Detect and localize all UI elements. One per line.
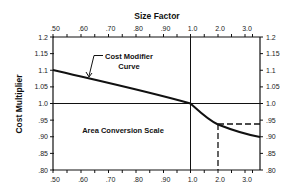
bottom-x-tick-label: .60 — [78, 176, 88, 183]
cost-multiplier-chart: .50.50.60.60.70.70.80.80.90.901.01.02.02… — [0, 0, 292, 194]
top-x-tick-label: .90 — [161, 25, 171, 32]
top-x-tick-label: 3.0 — [242, 25, 252, 32]
curve-label-line2: Curve — [118, 62, 139, 71]
top-axis-title: Size Factor — [134, 11, 180, 21]
right-y-tick-label: .80 — [266, 167, 276, 174]
top-x-tick-label: .50 — [50, 25, 60, 32]
area-conversion-scale-label: Area Conversion Scale — [82, 126, 164, 135]
curve-label-line1: Cost Modifier — [105, 52, 153, 61]
left-y-tick-label: 1.0 — [38, 100, 48, 107]
left-y-tick-label: 1.05 — [34, 83, 48, 90]
right-y-tick-label: 1.05 — [266, 83, 280, 90]
top-x-tick-label: .60 — [78, 25, 88, 32]
left-y-tick-label: 1.2 — [38, 34, 48, 41]
right-y-tick-label: 1.1 — [266, 67, 276, 74]
left-y-tick-label: .85 — [38, 150, 48, 157]
right-y-tick-label: 1.0 — [266, 100, 276, 107]
right-y-tick-label: 1.15 — [266, 50, 280, 57]
left-y-tick-label: 1.1 — [38, 67, 48, 74]
right-y-tick-label: .90 — [266, 133, 276, 140]
right-y-tick-label: .95 — [266, 117, 276, 124]
y-axis-title: Cost Multiplier — [14, 74, 24, 134]
top-x-tick-label: .70 — [106, 25, 116, 32]
top-x-tick-label: 1.0 — [188, 25, 198, 32]
bottom-x-tick-label: .90 — [161, 176, 171, 183]
left-y-tick-label: .95 — [38, 117, 48, 124]
reference-lines — [53, 37, 260, 170]
right-y-tick-label: 1.2 — [266, 34, 276, 41]
bottom-x-tick-label: .70 — [106, 176, 116, 183]
bottom-x-tick-label: .50 — [50, 176, 60, 183]
left-y-tick-label: .90 — [38, 133, 48, 140]
left-y-tick-label: 1.15 — [34, 50, 48, 57]
top-x-tick-label: .80 — [133, 25, 143, 32]
bottom-x-tick-label: 3.0 — [242, 176, 252, 183]
top-x-tick-label: 2.0 — [215, 25, 225, 32]
curve-pointer-arrow-icon — [86, 56, 103, 78]
right-y-tick-label: .85 — [266, 150, 276, 157]
left-y-tick-label: .80 — [38, 167, 48, 174]
bottom-x-tick-label: .80 — [133, 176, 143, 183]
bottom-x-tick-label: 2.0 — [215, 176, 225, 183]
bottom-x-tick-label: 1.0 — [188, 176, 198, 183]
